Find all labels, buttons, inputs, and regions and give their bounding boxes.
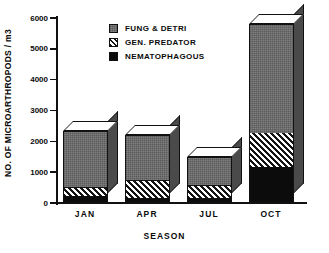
legend-label: GEN. PREDATOR xyxy=(125,38,196,47)
bar-segment-pred xyxy=(64,187,107,196)
bar-segment-pred xyxy=(126,180,169,198)
x-axis-title: SEASON xyxy=(0,231,329,241)
y-axis-tick xyxy=(50,79,57,81)
legend-swatch-pred xyxy=(109,38,118,47)
y-axis-tick-label-text: 1000 xyxy=(18,168,48,177)
y-axis-tick-label-text: 3000 xyxy=(18,106,48,115)
legend-item: NEMATOPHAGOUS xyxy=(109,50,205,62)
bar-top-face xyxy=(249,14,304,24)
y-axis-tick-label: 1000 xyxy=(16,167,48,178)
y-axis-tick-label: 0 xyxy=(16,198,48,209)
y-axis-tick xyxy=(50,48,57,50)
y-axis-tick xyxy=(50,110,57,112)
legend-swatch-fung xyxy=(109,24,118,33)
y-axis-tick-label-text: 5000 xyxy=(18,44,48,53)
y-axis-tick-label-text: 4000 xyxy=(18,75,48,84)
x-axis-label-oct: OCT xyxy=(241,209,302,219)
bar-top-face xyxy=(63,121,118,131)
y-axis-tick-label: 4000 xyxy=(16,74,48,85)
bar-segment-pred xyxy=(250,133,293,167)
y-axis-tick xyxy=(50,141,57,143)
y-axis-tick xyxy=(50,17,57,19)
bar-front-face xyxy=(249,24,294,203)
bar-segment-nema xyxy=(64,196,107,202)
bar-segment-fung xyxy=(188,157,231,185)
bar-segment-pred xyxy=(188,185,231,198)
bar-top-face xyxy=(125,125,180,135)
y-axis-tick-label: 5000 xyxy=(16,43,48,54)
bar-segment-fung xyxy=(250,24,293,132)
chart-legend: FUNG & DETRIGEN. PREDATORNEMATOPHAGOUS xyxy=(109,22,205,64)
bar-segment-fung xyxy=(64,131,107,187)
chart-figure: NO. OF MICROARTHROPODS / m3 010002000300… xyxy=(0,0,329,253)
y-axis-tick-label-text: 6000 xyxy=(18,14,48,23)
bar-jul xyxy=(187,157,232,203)
bar-side-face xyxy=(232,137,242,193)
legend-label: NEMATOPHAGOUS xyxy=(125,52,205,61)
bar-front-face xyxy=(63,131,108,203)
legend-swatch-nema xyxy=(109,52,118,61)
x-axis-label-apr: APR xyxy=(117,209,178,219)
bar-front-face xyxy=(187,157,232,203)
x-axis-label-jul: JUL xyxy=(179,209,240,219)
y-axis-tick-label: 2000 xyxy=(16,136,48,147)
legend-item: GEN. PREDATOR xyxy=(109,36,205,48)
bar-front-face xyxy=(125,135,170,203)
legend-item: FUNG & DETRI xyxy=(109,22,205,34)
bar-apr xyxy=(125,135,170,203)
y-axis-tick xyxy=(50,202,57,204)
y-axis-tick-label: 3000 xyxy=(16,105,48,116)
bar-jan xyxy=(63,131,108,203)
bar-segment-fung xyxy=(126,135,169,180)
y-axis-tick xyxy=(50,171,57,173)
y-axis-tick-label: 6000 xyxy=(16,13,48,24)
legend-label: FUNG & DETRI xyxy=(125,24,187,33)
y-axis-tick-label-text: 2000 xyxy=(18,137,48,146)
bar-segment-nema xyxy=(250,167,293,202)
y-axis-ticks: 0100020003000400050006000 xyxy=(0,0,57,253)
x-axis-label-jan: JAN xyxy=(55,209,116,219)
bar-side-face xyxy=(294,4,304,193)
y-axis-tick-label-text: 0 xyxy=(18,199,48,208)
bar-oct xyxy=(249,24,294,203)
